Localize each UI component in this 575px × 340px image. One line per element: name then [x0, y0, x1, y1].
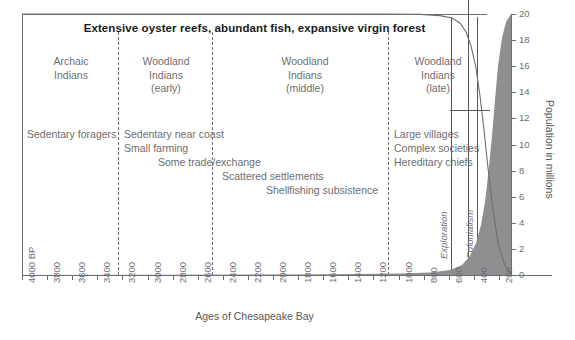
x-tick-6 — [173, 275, 174, 280]
y-tick-2 — [511, 223, 516, 224]
population-area — [22, 14, 511, 275]
x-tick-11 — [298, 275, 299, 280]
y-tick-label-2: 4 — [519, 217, 524, 228]
y-tick-label-5: 10 — [519, 139, 530, 150]
x-tick-label-2: 3600 — [76, 262, 87, 283]
x-tick-12 — [323, 275, 324, 280]
x-tick-0 — [22, 275, 23, 280]
x-tick-label-5: 3000 — [152, 262, 163, 283]
y-tick-0 — [511, 275, 516, 276]
x-tick-8 — [223, 275, 224, 280]
y-tick-8 — [511, 66, 516, 67]
x-tick-label-7: 2600 — [202, 262, 213, 283]
x-tick-18 — [474, 275, 475, 280]
x-tick-1 — [47, 275, 48, 280]
x-tick-label-6: 2800 — [177, 262, 188, 283]
y-tick-label-3: 6 — [519, 191, 524, 202]
x-tick-label-3: 3400 — [101, 262, 112, 283]
x-tick-label-1: 3800 — [51, 262, 62, 283]
y-tick-label-7: 14 — [519, 86, 530, 97]
curves-layer — [0, 0, 575, 340]
x-axis-title: Ages of Chesapeake Bay — [22, 310, 487, 322]
y-tick-9 — [511, 40, 516, 41]
x-tick-label-11: 1800 — [302, 262, 313, 283]
x-tick-label-14: 1200 — [377, 262, 388, 283]
y-tick-label-0: 0 — [519, 269, 524, 280]
x-tick-3 — [97, 275, 98, 280]
x-tick-7 — [198, 275, 199, 280]
y-tick-label-6: 12 — [519, 112, 530, 123]
x-tick-label-12: 1600 — [327, 262, 338, 283]
x-tick-label-0: 4000 BP — [26, 247, 37, 283]
x-tick-17 — [449, 275, 450, 280]
x-tick-label-9: 2200 — [252, 262, 263, 283]
x-tick-label-8: 2400 — [227, 262, 238, 283]
y-tick-4 — [511, 171, 516, 172]
y-tick-5 — [511, 145, 516, 146]
x-tick-9 — [248, 275, 249, 280]
y-tick-10 — [511, 14, 516, 15]
x-tick-16 — [424, 275, 425, 280]
y-tick-label-8: 16 — [519, 60, 530, 71]
y-tick-label-1: 2 — [519, 243, 524, 254]
y-tick-label-10: 20 — [519, 8, 530, 19]
x-tick-label-13: 1400 — [352, 262, 363, 283]
x-tick-15 — [399, 275, 400, 280]
y-tick-7 — [511, 92, 516, 93]
x-tick-2 — [72, 275, 73, 280]
x-tick-5 — [148, 275, 149, 280]
x-tick-label-17: 600 — [453, 267, 464, 283]
y-axis-title: Population in millions — [544, 100, 556, 199]
chart-canvas: Extensive oyster reefs, abundant fish, e… — [0, 0, 575, 340]
x-tick-13 — [348, 275, 349, 280]
x-tick-label-4: 3200 — [126, 262, 137, 283]
resource-abundance-curve — [22, 14, 511, 274]
x-tick-label-15: 1000 — [403, 262, 414, 283]
x-tick-4 — [122, 275, 123, 280]
y-tick-label-4: 8 — [519, 165, 524, 176]
y-tick-3 — [511, 197, 516, 198]
x-tick-14 — [373, 275, 374, 280]
x-tick-10 — [273, 275, 274, 280]
x-tick-label-18: 400 — [478, 267, 489, 283]
y-tick-1 — [511, 249, 516, 250]
x-tick-label-16: 800 — [428, 267, 439, 283]
y-tick-6 — [511, 118, 516, 119]
x-tick-19 — [499, 275, 500, 280]
x-tick-label-10: 2000 — [277, 262, 288, 283]
y-tick-label-9: 18 — [519, 34, 530, 45]
